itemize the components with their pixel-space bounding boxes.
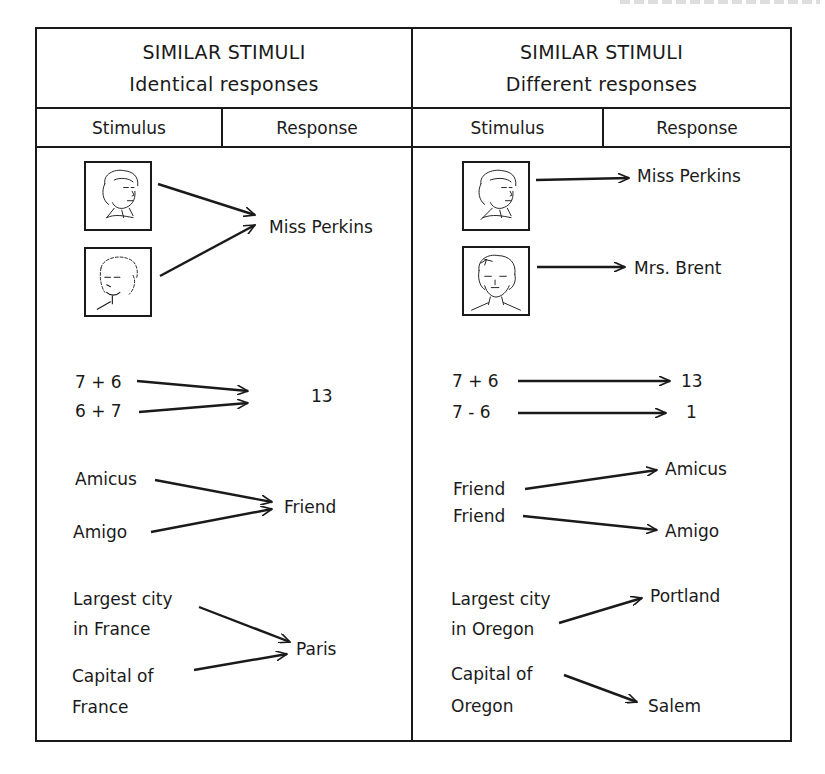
face-image-right-1 bbox=[462, 161, 530, 231]
stimulus-7-plus-6-right: 7 + 6 bbox=[452, 371, 499, 391]
cropped-caption-fragment bbox=[620, 0, 820, 4]
woman-profile-icon bbox=[464, 163, 528, 229]
face-image-right-2 bbox=[462, 246, 530, 316]
stimulus-7-minus-6: 7 - 6 bbox=[452, 402, 491, 422]
stimulus-friend-1: Friend bbox=[453, 479, 505, 499]
right-panel-subtitle: Different responses bbox=[413, 69, 790, 99]
left-stimulus-header: Stimulus bbox=[37, 109, 221, 148]
right-response-header: Response bbox=[604, 109, 790, 148]
stimulus-capital-france-line2: France bbox=[72, 697, 129, 717]
stimulus-amicus: Amicus bbox=[75, 469, 137, 489]
stimulus-6-plus-7: 6 + 7 bbox=[75, 401, 122, 421]
response-miss-perkins-right: Miss Perkins bbox=[637, 166, 741, 186]
response-amigo: Amigo bbox=[665, 521, 719, 541]
woman-profile-icon bbox=[86, 163, 150, 229]
woman-frontal-icon bbox=[464, 248, 528, 314]
stimulus-largest-city-oregon-line2: in Oregon bbox=[451, 619, 534, 639]
right-stimulus-header: Stimulus bbox=[413, 109, 602, 148]
response-salem: Salem bbox=[648, 696, 701, 716]
stimulus-7-plus-6: 7 + 6 bbox=[75, 372, 122, 392]
response-portland: Portland bbox=[650, 586, 720, 606]
response-1: 1 bbox=[686, 402, 697, 422]
left-response-header: Response bbox=[223, 109, 411, 148]
right-panel-title: SIMILAR STIMULI bbox=[413, 37, 790, 67]
response-miss-perkins: Miss Perkins bbox=[269, 217, 373, 237]
stimulus-capital-oregon-line1: Capital of bbox=[451, 664, 532, 684]
stimulus-largest-city-oregon-line1: Largest city bbox=[451, 589, 551, 609]
woman-three-quarter-icon bbox=[86, 249, 150, 315]
response-13-right: 13 bbox=[681, 371, 703, 391]
stimulus-largest-city-france-line1: Largest city bbox=[73, 589, 173, 609]
response-mrs-brent: Mrs. Brent bbox=[634, 258, 722, 278]
stimulus-capital-france-line1: Capital of bbox=[72, 666, 153, 686]
face-image-left-2 bbox=[84, 247, 152, 317]
face-image-left-1 bbox=[84, 161, 152, 231]
stimulus-amigo: Amigo bbox=[73, 522, 127, 542]
left-panel-title: SIMILAR STIMULI bbox=[37, 37, 411, 67]
response-13: 13 bbox=[311, 386, 333, 406]
left-panel-subtitle: Identical responses bbox=[37, 69, 411, 99]
stimulus-largest-city-france-line2: in France bbox=[73, 619, 150, 639]
stimulus-capital-oregon-line2: Oregon bbox=[451, 696, 513, 716]
response-friend: Friend bbox=[284, 497, 336, 517]
response-paris: Paris bbox=[296, 639, 336, 659]
response-amicus: Amicus bbox=[665, 459, 727, 479]
stimulus-friend-2: Friend bbox=[453, 506, 505, 526]
